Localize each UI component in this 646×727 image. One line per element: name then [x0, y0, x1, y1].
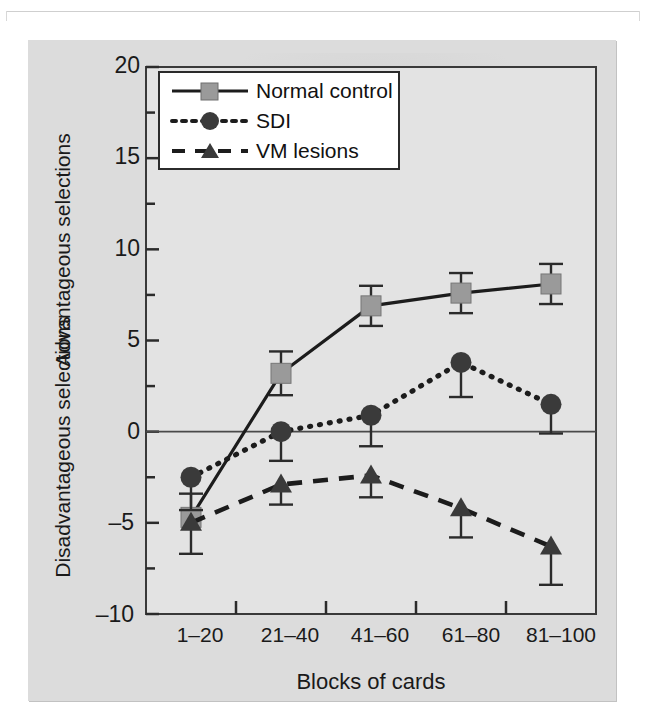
legend-key-normal-control — [168, 78, 252, 104]
legend-label-vm-lesions: VM lesions — [256, 139, 359, 163]
legend-key-sdi — [168, 108, 252, 134]
legend-item-normal-control: Normal control — [168, 76, 393, 106]
legend-item-vm-lesions: VM lesions — [168, 136, 359, 166]
chart-legend: Normal control SDI VM lesions — [158, 71, 400, 170]
data-series-group — [179, 264, 563, 585]
legend-label-sdi: SDI — [256, 109, 291, 133]
legend-item-sdi: SDI — [168, 106, 291, 136]
legend-key-vm-lesions — [168, 138, 252, 164]
legend-label-normal-control: Normal control — [256, 79, 393, 103]
